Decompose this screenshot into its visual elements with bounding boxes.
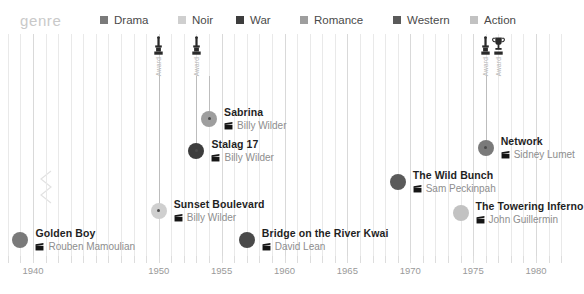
axis-tick xyxy=(247,256,248,263)
trophy-cup-icon[interactable]: Award xyxy=(492,36,505,76)
film-title: The Wild Bunch xyxy=(413,170,496,182)
axis-tick-label: 1960 xyxy=(274,265,295,276)
legend-item-war[interactable]: War xyxy=(236,14,271,26)
film-genre-dot[interactable] xyxy=(151,203,167,219)
legend-item-label: Romance xyxy=(314,14,363,26)
axis-tick xyxy=(71,256,72,263)
legend-swatch-icon xyxy=(236,16,244,24)
axis-tick xyxy=(498,256,499,263)
axis-tick xyxy=(259,256,260,263)
film-data-point[interactable]: NetworkSidney Lumet xyxy=(478,136,575,160)
film-director-row: John Guillermin xyxy=(476,214,584,225)
award-node-icon xyxy=(208,117,211,120)
film-title: Sabrina xyxy=(224,107,286,119)
legend-item-western[interactable]: Western xyxy=(393,14,450,26)
film-director-name: Billy Wilder xyxy=(237,120,286,131)
axis-tick xyxy=(410,256,411,263)
film-genre-dot[interactable] xyxy=(453,205,469,221)
axis-tick-label: 1965 xyxy=(337,265,358,276)
gridline xyxy=(448,34,449,256)
axis-tick xyxy=(473,256,474,263)
film-director-name: Billy Wilder xyxy=(187,212,236,223)
axis-tick xyxy=(58,256,59,263)
gridline xyxy=(423,34,424,256)
axis-tick xyxy=(234,256,235,263)
film-data-point[interactable]: SabrinaBilly Wilder xyxy=(201,107,286,131)
film-director-row: Billy Wilder xyxy=(224,120,286,131)
film-genre-dot[interactable] xyxy=(188,143,204,159)
axis-tick xyxy=(448,256,449,263)
film-director-row: Rouben Mamoulian xyxy=(35,241,135,252)
film-genre-dot[interactable] xyxy=(201,111,217,127)
film-data-point[interactable]: Golden BoyRouben Mamoulian xyxy=(12,228,135,252)
film-title: Network xyxy=(501,136,575,148)
gridline xyxy=(83,34,84,256)
gridline xyxy=(398,34,399,256)
axis-tick xyxy=(385,256,386,263)
axis-tick xyxy=(549,256,550,263)
clapperboard-icon xyxy=(211,153,220,162)
axis-tick xyxy=(536,256,537,263)
gridline xyxy=(410,34,411,256)
film-data-point[interactable]: The Wild BunchSam Peckinpah xyxy=(390,170,496,194)
film-label-group: SabrinaBilly Wilder xyxy=(224,107,286,131)
legend-item-action[interactable]: Action xyxy=(470,14,516,26)
axis-tick xyxy=(20,256,21,263)
film-director-name: Rouben Mamoulian xyxy=(48,241,135,252)
film-genre-dot[interactable] xyxy=(390,174,406,190)
legend-item-label: Action xyxy=(484,14,516,26)
axis-tick xyxy=(435,256,436,263)
gridline xyxy=(33,34,34,256)
film-genre-dot[interactable] xyxy=(12,232,28,248)
film-director-row: Billy Wilder xyxy=(211,152,273,163)
axis-tick xyxy=(486,256,487,263)
film-title: Golden Boy xyxy=(35,228,135,240)
film-data-point[interactable]: Stalag 17Billy Wilder xyxy=(188,139,273,163)
axis-tick xyxy=(121,256,122,263)
film-director-name: Sam Peckinpah xyxy=(426,183,496,194)
film-director-row: David Lean xyxy=(262,241,389,252)
film-genre-dot[interactable] xyxy=(478,140,494,156)
gridline xyxy=(121,34,122,256)
oscar-statuette-icon[interactable]: Award xyxy=(190,36,203,76)
film-data-point[interactable]: Bridge on the River KwaiDavid Lean xyxy=(239,228,389,252)
gridline xyxy=(134,34,135,256)
gridline xyxy=(310,34,311,256)
film-genre-dot[interactable] xyxy=(239,232,255,248)
oscar-statuette-icon[interactable]: Award xyxy=(479,36,492,76)
gridline xyxy=(373,34,374,256)
axis-tick xyxy=(461,256,462,263)
award-label: Award xyxy=(482,57,489,76)
axis-tick xyxy=(398,256,399,263)
film-data-point[interactable]: Sunset BoulevardBilly Wilder xyxy=(151,199,265,223)
axis-tick xyxy=(196,256,197,263)
oscar-statuette-icon[interactable]: Award xyxy=(152,36,165,76)
gridline xyxy=(360,34,361,256)
film-label-group: NetworkSidney Lumet xyxy=(501,136,575,160)
award-node-icon xyxy=(157,209,160,212)
axis-tick xyxy=(310,256,311,263)
gridline xyxy=(385,34,386,256)
film-label-group: Stalag 17Billy Wilder xyxy=(211,139,273,163)
film-title: Stalag 17 xyxy=(211,139,273,151)
legend-item-noir[interactable]: Noir xyxy=(178,14,213,26)
award-node-icon xyxy=(195,149,198,152)
film-director-row: Billy Wilder xyxy=(174,212,265,223)
clapperboard-icon xyxy=(476,215,485,224)
legend-item-label: Noir xyxy=(192,14,213,26)
clapperboard-icon xyxy=(501,150,510,159)
axis-tick xyxy=(108,256,109,263)
film-data-point[interactable]: The Towering InfernoJohn Guillermin xyxy=(453,201,584,225)
axis-tick xyxy=(134,256,135,263)
gridline xyxy=(297,34,298,256)
axis-tick xyxy=(523,256,524,263)
legend-item-romance[interactable]: Romance xyxy=(300,14,363,26)
legend-item-drama[interactable]: Drama xyxy=(100,14,149,26)
legend-swatch-icon xyxy=(300,16,308,24)
axis-tick xyxy=(8,256,9,263)
film-label-group: Bridge on the River KwaiDavid Lean xyxy=(262,228,389,252)
gridline xyxy=(20,34,21,256)
gridline xyxy=(58,34,59,256)
film-director-name: Billy Wilder xyxy=(224,152,273,163)
